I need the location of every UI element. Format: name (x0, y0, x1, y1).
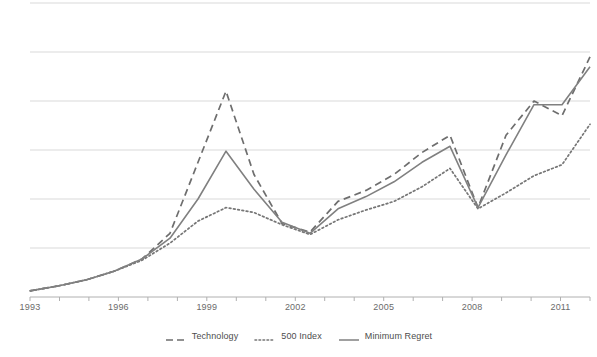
x-axis-tick-label: 1999 (196, 302, 217, 312)
line-chart: 1993199619992002200520082011 Technology … (0, 0, 597, 357)
x-axis-tick-label: 1993 (20, 302, 41, 312)
x-axis-ticks (30, 297, 590, 301)
series-line-technology (30, 57, 590, 291)
series-line-minimum-regret (30, 67, 590, 291)
data-series-group (30, 57, 590, 291)
x-axis-tick-label: 2002 (285, 302, 306, 312)
x-axis-tick-label: 2011 (550, 302, 570, 312)
legend-label-500-index: 500 Index (281, 331, 321, 341)
solid-line-swatch (338, 331, 360, 341)
gridlines (30, 3, 590, 248)
dotted-line-swatch (254, 331, 276, 341)
x-axis-tick-label: 2008 (462, 302, 483, 312)
legend-item-500-index[interactable]: 500 Index (254, 331, 321, 341)
dashed-line-swatch (165, 331, 187, 341)
series-line-500-index (30, 124, 590, 291)
legend-item-technology[interactable]: Technology (165, 331, 239, 341)
x-axis-tick-label: 1996 (108, 302, 129, 312)
legend-item-minimum-regret[interactable]: Minimum Regret (338, 331, 432, 341)
chart-legend: Technology 500 Index Minimum Regret (0, 327, 597, 345)
legend-label-technology: Technology (192, 331, 239, 341)
x-axis-tick-label: 2005 (373, 302, 394, 312)
legend-label-minimum-regret: Minimum Regret (365, 331, 432, 341)
